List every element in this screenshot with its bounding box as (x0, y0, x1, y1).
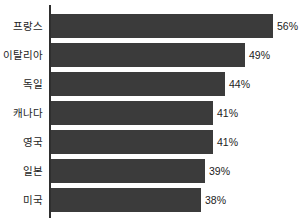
bar-value-label: 39% (209, 159, 230, 183)
category-label: 독일 (0, 72, 43, 96)
bar-value-label: 44% (229, 72, 250, 96)
bar-value-label: 56% (277, 14, 298, 38)
category-label: 캐나다 (0, 101, 43, 125)
bar (51, 130, 213, 154)
bar-row: 캐나다 41% (0, 101, 302, 125)
bar-value-label: 38% (205, 188, 226, 212)
bar (51, 14, 273, 38)
bar (51, 72, 225, 96)
bar-row: 이탈리아 49% (0, 43, 302, 67)
bar-row: 미국 38% (0, 188, 302, 212)
bar-row: 프랑스 56% (0, 14, 302, 38)
bar (51, 159, 205, 183)
category-label: 미국 (0, 188, 43, 212)
category-label: 일본 (0, 159, 43, 183)
bar-chart: 프랑스 56% 이탈리아 49% 독일 44% 캐나다 41% 영국 41% 일… (0, 0, 302, 222)
bar-row: 일본 39% (0, 159, 302, 183)
plot-area: 프랑스 56% 이탈리아 49% 독일 44% 캐나다 41% 영국 41% 일… (0, 0, 302, 222)
bar-value-label: 49% (249, 43, 270, 67)
bar (51, 188, 201, 212)
category-label: 영국 (0, 130, 43, 154)
bar (51, 101, 213, 125)
bar (51, 43, 245, 67)
bar-row: 영국 41% (0, 130, 302, 154)
bar-row: 독일 44% (0, 72, 302, 96)
category-label: 프랑스 (0, 14, 43, 38)
bar-value-label: 41% (217, 130, 238, 154)
category-label: 이탈리아 (0, 43, 43, 67)
bar-value-label: 41% (217, 101, 238, 125)
